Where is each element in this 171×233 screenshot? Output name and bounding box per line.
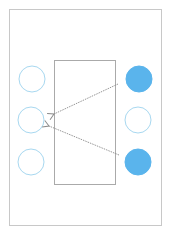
arrows-group xyxy=(49,84,119,155)
diagram-canvas xyxy=(0,0,171,233)
left-node-3-hollow xyxy=(18,149,44,175)
diagram-svg xyxy=(0,0,171,233)
arrow-R3-to-L2 xyxy=(49,126,119,155)
right-node-2-hollow xyxy=(125,107,151,133)
right-column-nodes xyxy=(125,66,152,175)
left-column-nodes xyxy=(18,66,45,175)
right-node-1-filled xyxy=(126,66,152,92)
outer-frame xyxy=(10,10,162,226)
left-node-2-hollow xyxy=(18,107,44,133)
left-node-1-hollow xyxy=(19,66,45,92)
center-box xyxy=(55,61,116,185)
right-node-3-filled xyxy=(125,149,151,175)
arrow-R1-to-L2 xyxy=(54,84,118,114)
